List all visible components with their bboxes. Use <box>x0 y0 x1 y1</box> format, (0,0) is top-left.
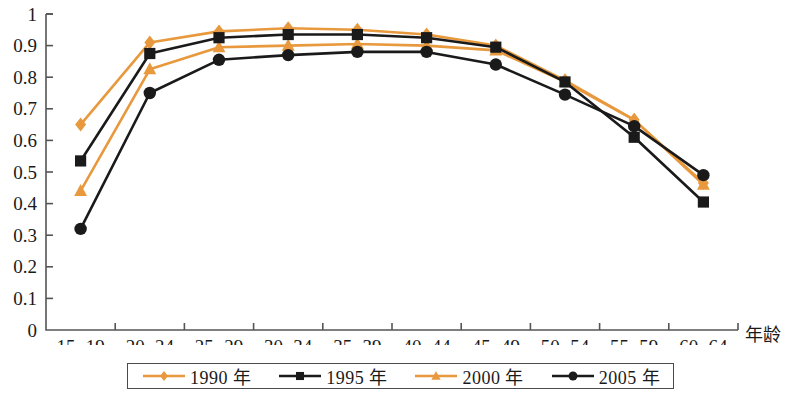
x-tick-label: 50~54 <box>541 336 590 345</box>
data-point-circle <box>559 88 571 100</box>
x-tick-label: 25~29 <box>195 336 243 345</box>
line-chart: 00.10.20.30.40.50.60.70.80.91 15~1920~24… <box>0 0 801 394</box>
y-tick-label: 0.4 <box>13 193 37 214</box>
data-point-circle <box>490 58 502 70</box>
y-axis-ticks <box>46 14 53 298</box>
data-point-diamond <box>160 371 168 381</box>
data-point-square <box>283 29 294 40</box>
data-point-square <box>629 132 640 143</box>
plot-area: 00.10.20.30.40.50.60.70.80.91 15~1920~24… <box>0 0 801 345</box>
y-tick-label: 1 <box>28 4 38 25</box>
x-tick-label: 30~34 <box>264 336 313 345</box>
y-tick-label: 0.6 <box>13 130 37 151</box>
x-axis-tick-labels: 15~1920~2425~2930~3435~3940~4445~4950~54… <box>56 336 728 345</box>
legend-item-3[interactable]: 2005 年 <box>537 363 673 389</box>
data-series-layer <box>74 21 710 235</box>
series-line <box>81 52 704 229</box>
data-point-circle <box>213 54 225 66</box>
chart-canvas: 00.10.20.30.40.50.60.70.80.91 15~1920~24… <box>0 0 801 345</box>
data-point-square <box>421 32 432 43</box>
y-tick-label: 0.9 <box>13 35 37 56</box>
x-tick-label: 35~39 <box>333 336 381 345</box>
series-0 <box>75 21 709 190</box>
axis-lines <box>46 14 738 330</box>
data-point-square <box>559 76 570 87</box>
x-tick-label: 55~59 <box>610 336 658 345</box>
data-point-circle <box>282 49 294 61</box>
data-point-circle <box>568 372 577 381</box>
data-point-circle <box>420 46 432 58</box>
x-tick-label: 20~24 <box>126 336 175 345</box>
legend-label-3: 2005 年 <box>599 363 661 389</box>
x-tick-label: 40~44 <box>402 336 451 345</box>
legend-item-2[interactable]: 2000 年 <box>401 363 537 389</box>
x-tick-label: 15~19 <box>56 336 104 345</box>
data-point-square <box>144 48 155 59</box>
legend-label-0: 1990 年 <box>190 363 252 389</box>
legend-marker-square <box>277 367 323 385</box>
legend-item-0[interactable]: 1990 年 <box>128 363 264 389</box>
data-point-square <box>490 42 501 53</box>
x-tick-label: 60~64 <box>679 336 728 345</box>
legend-marker-triangle <box>413 367 459 385</box>
x-axis-ticks <box>115 323 669 330</box>
data-point-circle <box>74 223 86 235</box>
y-tick-label: 0.8 <box>13 67 37 88</box>
y-tick-label: 0.1 <box>13 288 37 309</box>
y-axis-tick-labels: 00.10.20.30.40.50.60.70.80.91 <box>13 4 37 341</box>
legend-marker-circle <box>550 367 596 385</box>
legend-item-1[interactable]: 1995 年 <box>264 363 400 389</box>
y-tick-label: 0 <box>28 320 38 341</box>
data-point-square <box>296 372 304 380</box>
x-axis-title: 年龄 <box>745 325 781 345</box>
data-point-square <box>213 32 224 43</box>
y-tick-label: 0.7 <box>13 98 37 119</box>
series-3 <box>74 46 709 235</box>
chart-legend: 1990 年 1995 年 2000 年 2005 年 <box>127 363 674 389</box>
series-line <box>81 35 704 202</box>
y-tick-label: 0.3 <box>13 225 37 246</box>
data-point-circle <box>697 169 709 181</box>
legend-label-1: 1995 年 <box>326 363 388 389</box>
data-point-circle <box>628 120 640 132</box>
data-point-triangle <box>74 184 87 196</box>
data-point-square <box>75 155 86 166</box>
y-tick-label: 0.2 <box>13 256 37 277</box>
data-point-circle <box>144 87 156 99</box>
y-tick-label: 0.5 <box>13 162 37 183</box>
data-point-square <box>698 196 709 207</box>
legend-marker-diamond <box>141 367 187 385</box>
x-tick-label: 45~49 <box>472 336 520 345</box>
legend-label-2: 2000 年 <box>462 363 524 389</box>
data-point-circle <box>351 46 363 58</box>
data-point-square <box>352 29 363 40</box>
